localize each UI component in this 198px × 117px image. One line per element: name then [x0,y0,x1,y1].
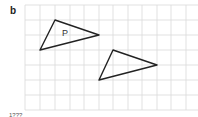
shape-label: P [62,28,68,38]
grid-diagram: P [0,0,198,117]
footer-text: 1??? [9,112,22,117]
